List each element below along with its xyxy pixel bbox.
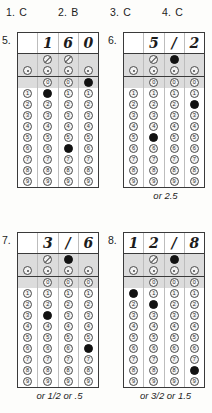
digit-cell[interactable]: 8	[59, 365, 79, 376]
digit-cell[interactable]: 2	[144, 99, 164, 110]
digit-cell[interactable]: 0	[144, 277, 164, 288]
handwritten-cell[interactable]: 3	[38, 233, 58, 253]
digit-bubble[interactable]: 4	[64, 322, 73, 331]
digit-cell[interactable]: 1	[124, 88, 144, 99]
digit-bubble[interactable]: 7	[149, 155, 158, 164]
digit-cell[interactable]: 4	[79, 321, 98, 332]
decimal-point-cell[interactable]	[165, 265, 185, 276]
digit-cell[interactable]: 8	[144, 165, 164, 176]
digit-bubble[interactable]: 6	[23, 144, 32, 153]
digit-cell[interactable]: 5	[38, 332, 58, 343]
handwritten-cell[interactable]: 0	[79, 33, 98, 53]
digit-cell[interactable]: 4	[165, 121, 185, 132]
handwritten-cell[interactable]: /	[165, 233, 185, 253]
digit-bubble[interactable]: 8	[170, 166, 179, 175]
digit-bubble[interactable]: 5	[129, 133, 138, 142]
digit-bubble[interactable]: 8	[190, 366, 199, 375]
digit-bubble[interactable]: 6	[64, 144, 73, 153]
digit-bubble[interactable]: 4	[170, 322, 179, 331]
digit-bubble[interactable]: 1	[23, 289, 32, 298]
digit-bubble[interactable]: 8	[23, 166, 32, 175]
digit-bubble[interactable]: 9	[170, 377, 179, 386]
digit-cell[interactable]: 0	[144, 77, 164, 88]
handwritten-cell[interactable]: /	[59, 233, 79, 253]
digit-bubble[interactable]: 8	[149, 366, 158, 375]
digit-bubble[interactable]: 7	[129, 355, 138, 364]
digit-cell[interactable]: 8	[144, 365, 164, 376]
digit-bubble[interactable]: 3	[84, 311, 93, 320]
digit-bubble[interactable]: 5	[149, 133, 158, 142]
digit-cell[interactable]: 2	[185, 299, 204, 310]
decimal-point-bubble[interactable]	[84, 66, 93, 75]
digit-cell[interactable]: 4	[165, 321, 185, 332]
handwritten-cell[interactable]	[124, 33, 144, 53]
digit-bubble[interactable]: 1	[190, 89, 199, 98]
digit-bubble[interactable]: 9	[64, 377, 73, 386]
digit-cell[interactable]: 7	[124, 354, 144, 365]
digit-cell[interactable]: 3	[79, 310, 98, 321]
digit-bubble[interactable]: 0	[149, 278, 158, 287]
digit-cell[interactable]: 1	[38, 288, 58, 299]
digit-bubble[interactable]: 6	[129, 144, 138, 153]
digit-bubble[interactable]: 9	[84, 177, 93, 186]
digit-bubble[interactable]: 7	[190, 355, 199, 364]
digit-cell[interactable]: 7	[165, 154, 185, 165]
digit-cell[interactable]: 6	[124, 143, 144, 154]
digit-cell[interactable]: 5	[38, 132, 58, 143]
digit-cell[interactable]: 1	[79, 88, 98, 99]
digit-bubble[interactable]: 6	[64, 344, 73, 353]
digit-cell[interactable]: 6	[59, 143, 79, 154]
decimal-point-cell[interactable]	[144, 265, 164, 276]
digit-cell[interactable]: 4	[144, 121, 164, 132]
digit-cell[interactable]: 8	[59, 165, 79, 176]
digit-cell[interactable]: 5	[144, 132, 164, 143]
digit-cell[interactable]: 5	[79, 332, 98, 343]
digit-bubble[interactable]: 4	[190, 322, 199, 331]
fraction-bar-bubble[interactable]	[43, 255, 52, 264]
digit-cell[interactable]: 4	[144, 321, 164, 332]
digit-cell[interactable]: 7	[185, 154, 204, 165]
digit-bubble[interactable]: 5	[190, 133, 199, 142]
fraction-bar-cell[interactable]	[38, 54, 58, 65]
digit-bubble[interactable]: 8	[84, 366, 93, 375]
digit-cell[interactable]: 3	[38, 310, 58, 321]
digit-bubble[interactable]: 8	[170, 366, 179, 375]
fraction-bar-bubble[interactable]	[170, 255, 179, 264]
digit-cell[interactable]: 3	[185, 310, 204, 321]
handwritten-cell[interactable]: 5	[144, 33, 164, 53]
decimal-point-bubble[interactable]	[149, 66, 158, 75]
decimal-point-bubble[interactable]	[129, 266, 138, 275]
digit-bubble[interactable]: 7	[190, 155, 199, 164]
digit-bubble[interactable]: 8	[43, 166, 52, 175]
decimal-point-bubble[interactable]	[23, 266, 32, 275]
digit-bubble[interactable]: 9	[23, 377, 32, 386]
digit-bubble[interactable]: 4	[43, 122, 52, 131]
digit-cell[interactable]: 9	[38, 376, 58, 387]
digit-bubble[interactable]: 7	[84, 155, 93, 164]
digit-cell[interactable]: 0	[59, 277, 79, 288]
handwritten-cell[interactable]	[18, 233, 38, 253]
digit-bubble[interactable]: 5	[23, 133, 32, 142]
digit-bubble[interactable]: 4	[64, 122, 73, 131]
digit-bubble[interactable]: 3	[190, 111, 199, 120]
digit-bubble[interactable]: 3	[64, 311, 73, 320]
digit-cell[interactable]: 9	[185, 176, 204, 187]
digit-cell[interactable]: 8	[124, 165, 144, 176]
digit-cell[interactable]: 7	[79, 354, 98, 365]
digit-cell[interactable]: 5	[165, 132, 185, 143]
digit-bubble[interactable]: 7	[129, 155, 138, 164]
digit-cell[interactable]: 5	[18, 132, 38, 143]
digit-bubble[interactable]: 2	[64, 100, 73, 109]
digit-bubble[interactable]: 3	[43, 111, 52, 120]
handwritten-answer-row[interactable]: 3/6	[18, 233, 98, 254]
digit-bubble[interactable]: 1	[84, 89, 93, 98]
digit-bubble[interactable]: 5	[190, 333, 199, 342]
digit-cell[interactable]: 1	[144, 88, 164, 99]
digit-cell[interactable]: 5	[185, 332, 204, 343]
digit-bubble[interactable]: 3	[190, 311, 199, 320]
digit-cell[interactable]: 2	[59, 99, 79, 110]
decimal-point-bubble[interactable]	[43, 66, 52, 75]
digit-bubble[interactable]: 3	[149, 311, 158, 320]
digit-bubble[interactable]: 6	[149, 344, 158, 353]
digit-cell[interactable]: 4	[185, 121, 204, 132]
